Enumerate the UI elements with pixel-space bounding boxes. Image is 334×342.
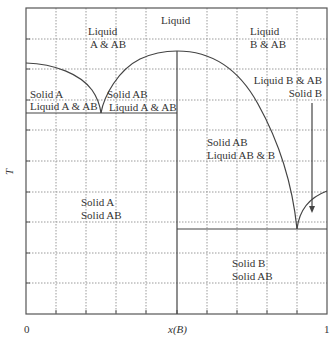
x-tick-1: 1 — [324, 323, 330, 335]
label-liquid-b-solid-1: Liquid B & AB — [254, 74, 322, 86]
label-solid-b-solid-ab-2: Solid AB — [232, 270, 273, 282]
label-solid-a-liquid-2: Liquid A & AB — [30, 100, 98, 112]
x-tick-0: 0 — [24, 323, 30, 335]
y-axis-label: T — [3, 168, 15, 175]
label-liquid-b-solid-2: Solid B — [289, 87, 322, 99]
label-liquid-a-ab-2: A & AB — [90, 38, 126, 50]
label-liquid-a-ab-1: Liquid — [88, 25, 118, 37]
x-axis-label: x(B) — [167, 323, 187, 336]
label-solid-a-liquid-1: Solid A — [30, 88, 63, 100]
phase-diagram: Liquid Liquid A & AB Liquid B & AB Solid… — [0, 0, 334, 342]
label-liquid-b-ab-1: Liquid — [250, 25, 280, 37]
label-solid-b-solid-ab-1: Solid B — [232, 257, 265, 269]
arrow-head-icon — [309, 206, 315, 213]
label-solid-ab-liquid-ab-b-2: Liquid AB & B — [207, 149, 275, 161]
label-solid-ab-liquid-1: Solid AB — [107, 88, 148, 100]
label-liquid: Liquid — [161, 14, 191, 26]
label-liquid-b-ab-2: B & AB — [250, 38, 286, 50]
label-solid-ab-liquid-ab-b-1: Solid AB — [207, 136, 248, 148]
phase-boundaries — [26, 51, 327, 314]
label-solid-ab-liquid-2: Liquid A & AB — [109, 101, 177, 113]
label-solid-a-solid-ab-1: Solid A — [81, 196, 114, 208]
label-solid-a-solid-ab-2: Solid AB — [81, 209, 122, 221]
